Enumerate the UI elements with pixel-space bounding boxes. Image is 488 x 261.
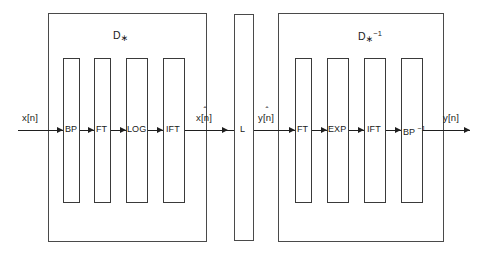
stage-label-text: L — [240, 124, 245, 134]
signal-name: ˆx[n] — [196, 113, 212, 123]
stage-label-text: IFT — [166, 124, 180, 134]
signal-label-input: x[n] — [22, 113, 38, 123]
wire-output — [423, 130, 470, 131]
stage-label-text: BP — [403, 127, 415, 137]
system-label-superscript: −1 — [373, 29, 382, 38]
stage-label-text: IFT — [367, 124, 381, 134]
system-label-base: D — [113, 29, 121, 41]
arrowhead-output — [464, 127, 470, 133]
stage-label-bp: BP — [65, 125, 77, 134]
stage-label-ft-2: FT — [297, 125, 308, 134]
arrowhead-ft-to-log — [120, 127, 126, 133]
stage-label-log: LOG — [127, 125, 146, 134]
arrowhead-input — [57, 127, 63, 133]
stage-label-ift-2: IFT — [367, 125, 381, 134]
arrowhead-bp-to-ft — [88, 127, 94, 133]
system-label-subscript: ∗ — [121, 33, 129, 43]
arrowhead-xhat — [222, 127, 228, 133]
stage-label-text: FT — [96, 124, 107, 134]
stage-label-text: BP — [65, 124, 77, 134]
signal-name: ˆy[n] — [258, 113, 274, 123]
hat-accent: ˆ — [265, 106, 268, 115]
stage-label-text: FT — [297, 124, 308, 134]
block-diagram: D∗ BP FT LOG IFT L D∗−1 FT EXP IFT BP−1 — [0, 0, 488, 261]
characteristic-system-label: D∗ — [113, 30, 128, 43]
stage-label-text: EXP — [328, 124, 346, 134]
signal-text: y[n] — [443, 112, 459, 123]
stage-label-ft: FT — [96, 125, 107, 134]
stage-label-l: L — [240, 125, 245, 134]
arrowhead-ift2-to-bpinv — [395, 127, 401, 133]
stage-label-text: LOG — [127, 124, 146, 134]
hat-accent: ˆ — [203, 106, 206, 115]
signal-name: y[n] — [443, 113, 459, 123]
inverse-characteristic-system-label: D∗−1 — [358, 30, 382, 44]
arrowhead-exp-to-ift — [358, 127, 364, 133]
stage-label-ift: IFT — [166, 125, 180, 134]
arrowhead-ft2-to-exp — [321, 127, 327, 133]
signal-label-xhat: ˆx[n] — [196, 113, 212, 123]
stage-label-exp: EXP — [328, 125, 346, 134]
arrowhead-log-to-ift — [157, 127, 163, 133]
system-label-base: D — [358, 30, 366, 42]
signal-label-yhat: ˆy[n] — [258, 113, 274, 123]
signal-name: x[n] — [22, 113, 38, 123]
signal-label-output: y[n] — [443, 113, 459, 123]
arrowhead-yhat — [289, 127, 295, 133]
signal-text: x[n] — [22, 112, 38, 123]
